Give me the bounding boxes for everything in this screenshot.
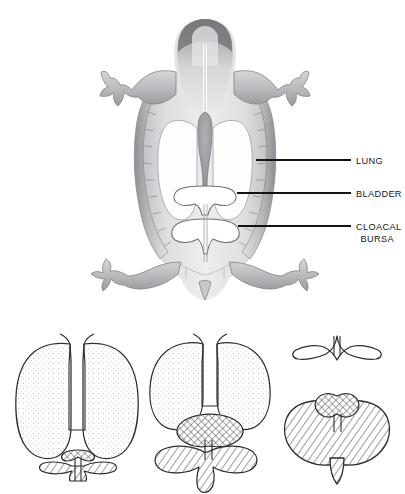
cloacal-bursa-label-line2: BURSA bbox=[361, 234, 395, 244]
panel-b-bladder bbox=[177, 414, 243, 447]
figure-canvas: LUNG BLADDER CLOACAL BURSA bbox=[0, 0, 405, 494]
lung-label: LUNG bbox=[356, 156, 383, 166]
anatomy-figure: LUNG BLADDER CLOACAL BURSA bbox=[0, 0, 405, 494]
bladder-label: BLADDER bbox=[356, 189, 402, 199]
cloacal-bursa-label-line1: CLOACAL bbox=[356, 222, 401, 232]
panel-c-bladder bbox=[315, 394, 359, 417]
